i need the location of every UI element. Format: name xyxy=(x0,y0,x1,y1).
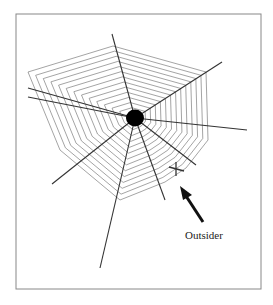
web-center-hub xyxy=(126,110,144,127)
arrow-icon xyxy=(180,186,203,222)
figure-frame xyxy=(16,14,261,289)
outsider-label: Outsider xyxy=(185,229,223,241)
outsider-cross-icon xyxy=(169,162,184,176)
spider-web-figure xyxy=(0,0,273,305)
